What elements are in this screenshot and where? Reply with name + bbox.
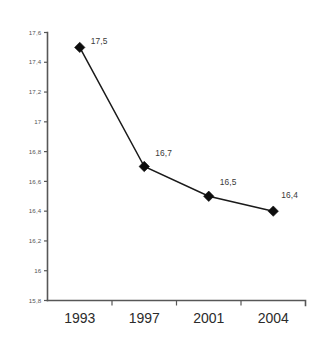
y-axis-tick-label: 16,8 — [29, 148, 42, 155]
y-axis-tick-label: 16,6 — [29, 178, 42, 185]
x-axis-tick-label: 2004 — [258, 310, 289, 326]
y-axis-tick-label: 17,2 — [29, 88, 42, 95]
data-point-label: 16,5 — [220, 177, 237, 187]
x-axis-tick-label: 1993 — [64, 310, 95, 326]
y-axis-tick-label: 15,8 — [29, 297, 42, 304]
line-chart-figure: 17,617,417,21716,816,616,416,21615,8 199… — [0, 0, 316, 350]
x-axis-tick-label: 1997 — [129, 310, 160, 326]
chart-canvas: 17,617,417,21716,816,616,416,21615,8 199… — [0, 0, 316, 350]
x-axis-tick-label: 2001 — [193, 310, 224, 326]
data-point-label: 16,4 — [281, 190, 298, 200]
data-point-label: 16,7 — [155, 148, 172, 158]
y-axis-tick-label: 16 — [34, 267, 42, 274]
y-axis-tick-label: 17,4 — [29, 58, 42, 65]
y-axis-tick-label: 17 — [34, 118, 42, 125]
data-point-label: 17,5 — [91, 36, 108, 46]
y-axis-tick-label: 16,2 — [29, 237, 42, 244]
y-axis-tick-label: 17,6 — [29, 29, 42, 36]
y-axis-tick-label: 16,4 — [29, 207, 42, 214]
